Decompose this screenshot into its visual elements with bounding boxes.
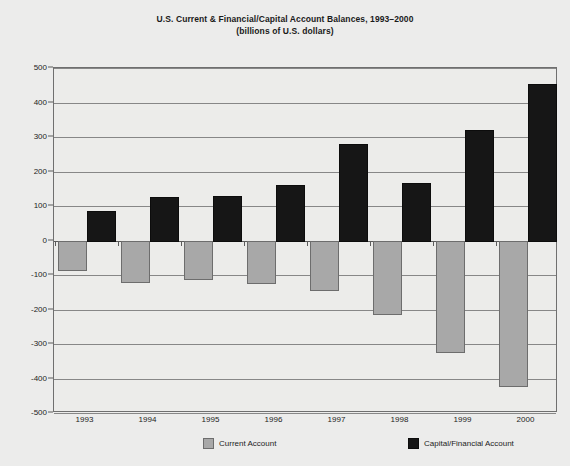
chart-title-main: U.S. Current & Financial/Capital Account… — [157, 14, 414, 24]
chart-legend: Current AccountCapital/Financial Account — [53, 438, 557, 452]
bar-capital-financial-account-1999 — [465, 130, 494, 242]
x-axis-tick-mark — [370, 241, 371, 246]
bar-current-account-1997 — [310, 241, 339, 291]
legend-item-capital-financial-account: Capital/Financial Account — [408, 438, 514, 449]
legend-swatch-capital — [408, 438, 419, 449]
y-axis-tick-label: -400 — [31, 373, 47, 382]
x-axis-tick-mark — [181, 241, 182, 246]
y-axis-tick-label: -500 — [31, 408, 47, 417]
x-axis-tick-mark — [433, 241, 434, 246]
chart-subtitle: (billions of U.S. dollars) — [0, 26, 570, 38]
y-axis-tick-label: 0 — [43, 235, 47, 244]
x-axis-tick-label-1993: 1993 — [76, 415, 94, 424]
y-axis-tick-mark — [48, 377, 53, 378]
bar-capital-financial-account-1994 — [150, 197, 179, 243]
x-axis-tick-mark — [244, 241, 245, 246]
y-axis-tick-mark — [48, 136, 53, 137]
x-axis-tick-mark — [55, 241, 56, 246]
chart-title: U.S. Current & Financial/Capital Account… — [0, 14, 570, 37]
gridline — [54, 413, 556, 414]
y-axis-tick-mark — [48, 412, 53, 413]
chart-figure: U.S. Current & Financial/Capital Account… — [0, 0, 570, 466]
legend-item-current-account: Current Account — [203, 438, 276, 449]
bar-current-account-1999 — [436, 241, 465, 353]
y-axis-tick-mark — [48, 170, 53, 171]
x-axis-tick-mark — [496, 241, 497, 246]
bar-current-account-1993 — [58, 241, 87, 271]
y-axis-tick-label: 300 — [34, 132, 47, 141]
x-axis-tick-mark — [118, 241, 119, 246]
bar-capital-financial-account-2000 — [528, 84, 557, 243]
x-axis-tick-label-2000: 2000 — [517, 415, 535, 424]
x-axis-tick-mark — [307, 241, 308, 246]
bar-current-account-2000 — [499, 241, 528, 388]
bar-current-account-1998 — [373, 241, 402, 315]
y-axis-tick-mark — [48, 239, 53, 240]
x-axis-tick-label-1997: 1997 — [328, 415, 346, 424]
plot-area — [53, 67, 557, 412]
x-axis-tick-label-1996: 1996 — [265, 415, 283, 424]
y-axis-tick-mark — [48, 274, 53, 275]
x-axis-labels: 19931994199519961997199819992000 — [53, 415, 557, 431]
y-axis-tick-mark — [48, 205, 53, 206]
y-axis-tick-label: -200 — [31, 304, 47, 313]
x-axis-tick-label-1995: 1995 — [202, 415, 220, 424]
legend-label: Current Account — [219, 439, 276, 448]
y-axis-tick-mark — [48, 308, 53, 309]
y-axis-tick-label: 100 — [34, 201, 47, 210]
y-axis-tick-label: -100 — [31, 270, 47, 279]
legend-label: Capital/Financial Account — [424, 439, 514, 448]
bar-current-account-1996 — [247, 241, 276, 284]
y-axis-tick-label: 500 — [34, 63, 47, 72]
bar-capital-financial-account-1996 — [276, 185, 305, 243]
y-axis-tick-label: -300 — [31, 339, 47, 348]
y-axis-tick-label: 200 — [34, 166, 47, 175]
bar-capital-financial-account-1993 — [87, 211, 116, 242]
bar-current-account-1995 — [184, 241, 213, 281]
y-axis-tick-mark — [48, 343, 53, 344]
y-axis-tick-mark — [48, 67, 53, 68]
bar-capital-financial-account-1998 — [402, 183, 431, 243]
x-axis-tick-label-1998: 1998 — [391, 415, 409, 424]
bars-layer — [54, 68, 556, 411]
x-axis-tick-label-1994: 1994 — [139, 415, 157, 424]
y-axis-tick-label: 400 — [34, 97, 47, 106]
bar-current-account-1994 — [121, 241, 150, 284]
bar-capital-financial-account-1995 — [213, 196, 242, 243]
x-axis-tick-label-1999: 1999 — [454, 415, 472, 424]
y-axis-tick-mark — [48, 101, 53, 102]
legend-swatch-current — [203, 438, 214, 449]
bar-capital-financial-account-1997 — [339, 144, 368, 243]
